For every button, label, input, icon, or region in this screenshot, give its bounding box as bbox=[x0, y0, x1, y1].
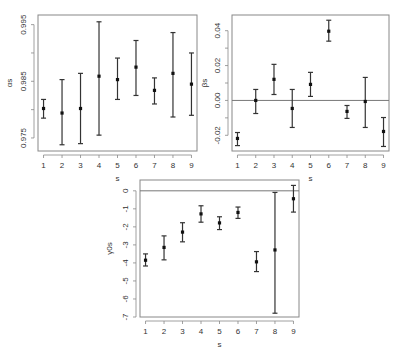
x-tick-label: 7 bbox=[152, 161, 157, 170]
error-bar-point bbox=[189, 53, 194, 115]
error-bar-point bbox=[235, 207, 240, 218]
y-axis-label: γ0s bbox=[105, 242, 114, 254]
data-point bbox=[309, 83, 312, 86]
x-tick-label: 5 bbox=[115, 161, 120, 170]
error-bar-point bbox=[326, 20, 331, 41]
y-tick-label: -3 bbox=[121, 241, 130, 249]
error-bar-point bbox=[290, 89, 295, 127]
data-point bbox=[116, 78, 119, 81]
x-tick-label: 1 bbox=[143, 327, 148, 336]
data-point bbox=[134, 66, 137, 69]
error-bar-point bbox=[162, 236, 167, 260]
data-point bbox=[236, 137, 239, 140]
y-axis-label: αs bbox=[5, 79, 14, 88]
y-tick-label: 0.995 bbox=[19, 14, 28, 35]
y-tick-label: 0.04 bbox=[213, 22, 222, 38]
error-bar-point bbox=[143, 254, 148, 266]
data-point bbox=[153, 89, 156, 92]
data-point bbox=[190, 83, 193, 86]
error-bar-point bbox=[60, 80, 65, 145]
x-tick-label: 6 bbox=[327, 161, 332, 170]
data-point bbox=[42, 107, 45, 110]
error-bar-point bbox=[363, 77, 368, 127]
data-point bbox=[345, 110, 348, 113]
y-tick-label: -6 bbox=[121, 295, 130, 303]
x-tick-label: 9 bbox=[291, 327, 296, 336]
x-tick-label: 4 bbox=[97, 161, 102, 170]
y-tick-label: 0.975 bbox=[19, 127, 28, 148]
data-point bbox=[292, 197, 295, 200]
error-bar-point bbox=[170, 33, 175, 117]
x-tick-label: 7 bbox=[345, 161, 350, 170]
error-bar-point bbox=[97, 22, 102, 135]
x-tick-label: 2 bbox=[254, 161, 259, 170]
panel-alpha: 123456789s0.9750.9850.995αs bbox=[5, 14, 197, 183]
data-point bbox=[60, 111, 63, 114]
error-bar-point bbox=[271, 64, 276, 94]
x-axis-label: s bbox=[116, 174, 120, 183]
x-tick-label: 5 bbox=[217, 327, 222, 336]
error-bar-point bbox=[41, 99, 46, 118]
x-tick-label: 1 bbox=[41, 161, 46, 170]
y-tick-label: -5 bbox=[121, 277, 130, 285]
data-point bbox=[272, 78, 275, 81]
x-tick-label: 2 bbox=[162, 327, 167, 336]
x-tick-label: 8 bbox=[363, 161, 368, 170]
error-bar-point bbox=[115, 58, 120, 99]
y-axis-label: βs bbox=[200, 79, 209, 88]
error-bar-point bbox=[253, 89, 258, 113]
error-bar-point bbox=[152, 78, 157, 104]
data-point bbox=[199, 212, 202, 215]
x-tick-label: 6 bbox=[134, 161, 139, 170]
data-point bbox=[162, 246, 165, 249]
data-point bbox=[236, 211, 239, 214]
data-point bbox=[218, 221, 221, 224]
errorbar-charts: 123456789s0.9750.9850.995αs 123456789s-0… bbox=[0, 0, 405, 357]
x-tick-label: 9 bbox=[381, 161, 386, 170]
x-tick-label: 8 bbox=[171, 161, 176, 170]
error-bar-point bbox=[78, 73, 83, 143]
error-bar-point bbox=[254, 252, 259, 272]
x-tick-label: 2 bbox=[60, 161, 65, 170]
data-point bbox=[327, 30, 330, 33]
x-tick-label: 3 bbox=[180, 327, 185, 336]
x-tick-label: 4 bbox=[199, 327, 204, 336]
data-point bbox=[255, 260, 258, 263]
y-tick-label: -1 bbox=[121, 205, 130, 213]
x-tick-label: 7 bbox=[254, 327, 259, 336]
x-tick-label: 6 bbox=[236, 327, 241, 336]
x-axis-label: s bbox=[218, 340, 222, 349]
panel-gamma: 123456789s0-1-2-3-4-5-6-7γ0s bbox=[105, 180, 299, 349]
y-tick-label: 0.02 bbox=[213, 57, 222, 73]
error-bar-point bbox=[180, 223, 185, 242]
y-tick-label: 0.985 bbox=[19, 71, 28, 92]
error-bar-point bbox=[272, 192, 277, 313]
x-tick-label: 4 bbox=[290, 161, 295, 170]
data-point bbox=[97, 75, 100, 78]
error-bar-point bbox=[199, 206, 204, 222]
data-point bbox=[382, 130, 385, 133]
error-bar-point bbox=[235, 133, 240, 146]
error-bar-point bbox=[345, 105, 350, 118]
data-point bbox=[254, 99, 257, 102]
data-point bbox=[171, 72, 174, 75]
y-tick-label: -4 bbox=[121, 259, 130, 267]
data-point bbox=[181, 230, 184, 233]
y-tick-label: 0.00 bbox=[213, 92, 222, 108]
y-tick-label: -2 bbox=[121, 223, 130, 231]
x-axis-label: s bbox=[309, 174, 313, 183]
x-tick-label: 1 bbox=[235, 161, 240, 170]
x-tick-label: 5 bbox=[308, 161, 313, 170]
x-tick-label: 3 bbox=[78, 161, 83, 170]
x-tick-label: 8 bbox=[273, 327, 278, 336]
data-point bbox=[144, 259, 147, 262]
data-point bbox=[291, 107, 294, 110]
figure: 123456789s0.9750.9850.995αs 123456789s-0… bbox=[0, 0, 405, 357]
error-bar-point bbox=[133, 41, 138, 96]
y-tick-label: -0.02 bbox=[213, 126, 222, 145]
y-tick-label: 0 bbox=[121, 188, 130, 193]
data-point bbox=[79, 107, 82, 110]
data-point bbox=[364, 100, 367, 103]
error-bar-point bbox=[217, 217, 222, 230]
data-point bbox=[273, 248, 276, 251]
